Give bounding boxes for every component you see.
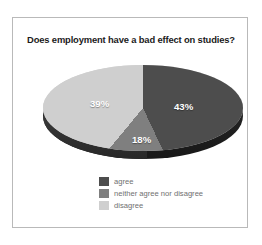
- legend-label-agree: agree: [114, 177, 133, 186]
- pie-label-neither: 18%: [132, 134, 151, 145]
- legend-swatch-neither: [99, 189, 109, 198]
- pie-label-agree: 43%: [174, 101, 193, 112]
- legend-label-neither: neither agree nor disagree: [114, 189, 203, 198]
- legend-item-agree[interactable]: agree: [99, 176, 249, 188]
- chart-title: Does employment have a bad effect on stu…: [13, 34, 249, 45]
- legend: agree neither agree nor disagree disagre…: [99, 176, 249, 212]
- legend-label-disagree: disagree: [114, 201, 143, 210]
- legend-item-disagree[interactable]: disagree: [99, 200, 249, 212]
- legend-item-neither[interactable]: neither agree nor disagree: [99, 188, 249, 200]
- figure-root: Does employment have a bad effect on stu…: [0, 0, 262, 245]
- pie-label-disagree: 39%: [90, 98, 109, 109]
- chart-frame: Does employment have a bad effect on stu…: [12, 17, 248, 228]
- legend-swatch-disagree: [99, 201, 109, 210]
- pie-chart: 43% 18% 39%: [22, 51, 242, 171]
- legend-swatch-agree: [99, 177, 109, 186]
